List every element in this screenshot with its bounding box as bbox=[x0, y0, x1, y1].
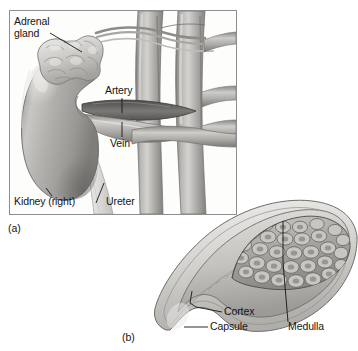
label-cortex: Cortex bbox=[224, 306, 254, 318]
panel-a-artwork bbox=[10, 11, 236, 214]
label-adrenal-gland-line1: Adrenal bbox=[14, 16, 50, 28]
adrenal-gland-figure: Adrenal gland Artery Vein Kidney (right)… bbox=[0, 0, 358, 351]
figure-artwork bbox=[0, 0, 358, 351]
panel-a-tag: (a) bbox=[8, 222, 21, 234]
panel-b-tag: (b) bbox=[122, 331, 135, 343]
label-capsule: Capsule bbox=[210, 321, 248, 333]
panel-b-artwork bbox=[154, 200, 357, 333]
label-kidney-right: Kidney (right) bbox=[14, 196, 75, 208]
label-adrenal-gland-line2: gland bbox=[14, 28, 39, 40]
label-ureter: Ureter bbox=[106, 196, 135, 208]
label-vein: Vein bbox=[110, 138, 130, 150]
label-medulla: Medulla bbox=[288, 321, 324, 333]
adrenal-gland-gross bbox=[38, 36, 103, 85]
label-artery: Artery bbox=[105, 85, 132, 97]
